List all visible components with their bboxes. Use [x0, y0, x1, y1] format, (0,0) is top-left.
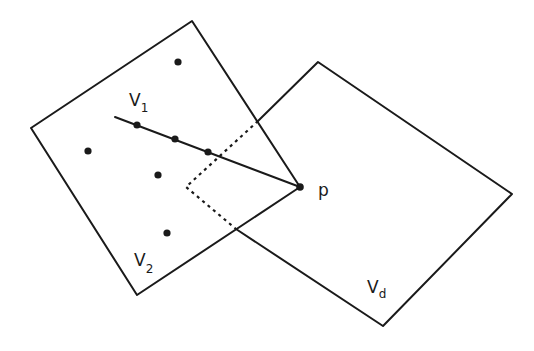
scatter-point: [174, 58, 181, 65]
scatter-point: [163, 229, 170, 236]
label-p: p: [318, 180, 329, 200]
scatter-point: [84, 147, 91, 154]
label-v2: V2: [134, 250, 153, 276]
right-region-hidden-corner: [186, 121, 258, 229]
line-point: [204, 148, 211, 155]
line-point: [133, 121, 140, 128]
scatter-point: [154, 171, 161, 178]
label-vd: Vd: [367, 277, 386, 301]
left-region-square: [31, 21, 300, 295]
line-point: [171, 135, 178, 142]
diagram-canvas: V1 p V2 Vd: [0, 0, 534, 351]
label-v1: V1: [129, 90, 148, 115]
vertex-p: [296, 183, 304, 191]
